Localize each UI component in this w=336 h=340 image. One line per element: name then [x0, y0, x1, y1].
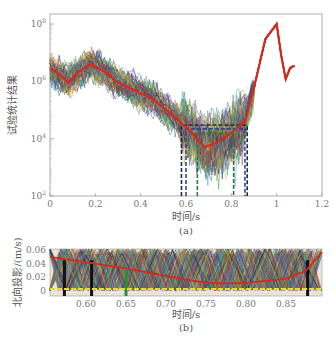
y-tick-label: 0.02: [26, 272, 46, 282]
x-tick-label: 0.70: [156, 299, 176, 309]
plot-a-ylabel: 试验统计结果: [6, 75, 18, 135]
x-tick-label: 0.85: [276, 299, 296, 309]
x-tick-label: 0.2: [88, 199, 102, 209]
x-tick-label: 0.6: [179, 199, 194, 209]
x-tick-label: 0.4: [134, 199, 149, 209]
plot-b-x-ticks: 0.600.650.700.750.800.85: [76, 299, 296, 309]
x-tick-label: 0: [47, 199, 53, 209]
plot-a-xlabel: 时间/s: [172, 210, 201, 222]
y-tick-label: 108: [31, 17, 46, 29]
plot-a-caption: (a): [179, 225, 193, 236]
y-tick-label: 102: [31, 189, 46, 201]
y-tick-label: 0: [40, 286, 46, 296]
figure: 102104106108 00.20.40.60.811.2 试验统计结果 时间…: [0, 0, 336, 340]
y-tick-label: 0.04: [26, 259, 46, 269]
marker-bar: [63, 260, 66, 296]
y-tick-label: 104: [31, 132, 46, 144]
x-tick-label: 0.75: [196, 299, 216, 309]
marker-bar: [306, 260, 309, 296]
y-tick-label: 106: [31, 74, 46, 86]
x-tick-label: 0.65: [116, 299, 136, 309]
x-tick-label: 0.60: [76, 299, 96, 309]
x-tick-label: 1.2: [315, 199, 329, 209]
x-tick-label: 0.8: [224, 199, 239, 209]
marker-bar: [90, 260, 93, 296]
x-tick-label: 0.80: [236, 299, 256, 309]
y-tick-label: 0.06: [26, 245, 46, 255]
plot-a: 102104106108 00.20.40.60.811.2 试验统计结果 时间…: [6, 14, 329, 236]
marker-bar: [125, 271, 128, 297]
x-tick-label: 1: [274, 199, 280, 209]
plot-b-xlabel: 时间/s: [172, 308, 201, 320]
plot-b-ylabel: 北向投影/(m/s): [11, 237, 23, 306]
plot-b: 00.020.040.06 0.600.650.700.750.800.85 北…: [11, 237, 322, 333]
plot-b-y-ticks: 00.020.040.06: [26, 245, 46, 296]
plot-b-caption: (b): [179, 322, 193, 333]
